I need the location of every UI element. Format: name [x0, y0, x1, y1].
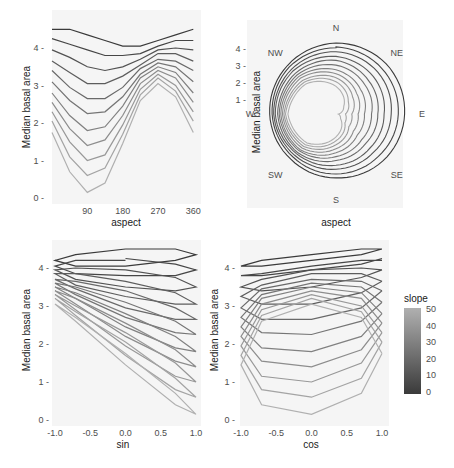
legend-label: 30: [426, 337, 436, 347]
y-tick-label: 3 -: [224, 301, 235, 311]
y-tick-label: 1 -: [224, 377, 235, 387]
x-tick-label: 90: [82, 206, 92, 216]
x-axis-ticks: -1.0-0.50.00.51.0: [233, 428, 388, 438]
y-tick-label: 1 -: [235, 95, 246, 105]
legend-label: 0: [426, 387, 431, 397]
y-tick-label: 2 -: [33, 118, 44, 128]
x-axis-ticks: 90180270360: [82, 206, 200, 216]
y-tick-label: 3 -: [235, 61, 246, 71]
x-tick-label: 360: [186, 206, 201, 216]
panel-cos: 0 -1 -2 -3 -4 - -1.0-0.50.00.51.0 cos Me…: [209, 240, 389, 450]
legend-label: 40: [426, 321, 436, 331]
y-tick-label: 0 -: [224, 415, 235, 425]
x-tick-label: -0.5: [268, 428, 284, 438]
x-tick-label: 0.5: [154, 428, 167, 438]
compass-label: NE: [391, 48, 404, 58]
y-axis-label: Median basal area: [21, 288, 32, 371]
x-axis-label: sin: [117, 439, 130, 450]
legend-title: slope: [404, 293, 428, 304]
legend-label: 20: [426, 354, 436, 364]
y-tick-label: 4 -: [38, 263, 49, 273]
x-tick-label: 0.0: [305, 428, 318, 438]
x-tick-label: 180: [115, 206, 130, 216]
y-axis-label: Median basal area: [251, 70, 262, 153]
y-tick-label: 4 -: [224, 263, 235, 273]
y-axis-ticks: 0 -1 -2 -3 -4 -: [38, 263, 49, 425]
x-tick-label: -1.0: [47, 428, 63, 438]
compass-label: NW: [268, 48, 283, 58]
y-tick-label: 2 -: [235, 78, 246, 88]
compass-label: SE: [391, 170, 403, 180]
legend-label: 50: [426, 304, 436, 314]
y-tick-label: 3 -: [33, 81, 44, 91]
x-tick-label: 1.0: [190, 428, 203, 438]
x-axis-label: aspect: [111, 217, 141, 228]
y-tick-label: 0 -: [38, 415, 49, 425]
y-tick-label: 0 -: [33, 193, 44, 203]
x-tick-label: -1.0: [233, 428, 249, 438]
y-tick-label: 1 -: [33, 156, 44, 166]
x-axis-label: aspect: [321, 217, 351, 228]
y-tick-label: 2 -: [38, 339, 49, 349]
legend-label: 10: [426, 370, 436, 380]
y-tick-label: 3 -: [38, 301, 49, 311]
y-axis-label: Median basal area: [209, 288, 220, 371]
x-tick-label: 1.0: [376, 428, 389, 438]
y-axis-ticks: 0 -1 -2 -3 -4 -: [224, 263, 235, 425]
y-axis-ticks: 1 -2 -3 -4 -: [235, 44, 246, 105]
x-axis-ticks: -1.0-0.50.00.51.0: [47, 428, 202, 438]
compass-label: S: [333, 195, 339, 205]
compass-label: E: [419, 109, 425, 119]
panel-aspect-line: 0 -1 -2 -3 -4 - 90180270360 aspect Media…: [21, 10, 201, 228]
y-tick-label: 4 -: [33, 43, 44, 53]
x-tick-label: 270: [150, 206, 165, 216]
y-tick-label: 2 -: [224, 339, 235, 349]
x-axis-label: cos: [303, 439, 319, 450]
y-tick-label: 4 -: [235, 44, 246, 54]
compass-label: SW: [268, 170, 283, 180]
chart-figure: 0 -1 -2 -3 -4 - 90180270360 aspect Media…: [0, 0, 454, 468]
x-tick-label: 0.0: [119, 428, 132, 438]
legend-labels: 50403020100: [426, 304, 436, 397]
compass-label: N: [333, 23, 340, 33]
y-axis-label: Median basal area: [21, 65, 32, 148]
x-tick-label: -0.5: [82, 428, 98, 438]
legend-slope: slope 50403020100: [404, 293, 436, 397]
x-tick-label: 0.5: [340, 428, 353, 438]
legend-colorbar: [404, 308, 421, 394]
y-tick-label: 1 -: [38, 377, 49, 387]
y-axis-ticks: 0 -1 -2 -3 -4 -: [33, 43, 44, 203]
panel-sin: 0 -1 -2 -3 -4 - -1.0-0.50.00.51.0 sin Me…: [21, 240, 202, 450]
panel-aspect-polar: 1 -2 -3 -4 - NNEESESSWWNW aspect Median …: [235, 20, 425, 228]
